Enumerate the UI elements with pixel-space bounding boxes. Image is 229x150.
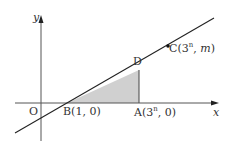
point-a-name: A bbox=[134, 106, 142, 119]
origin-label: O bbox=[29, 106, 38, 117]
line-bc bbox=[15, 18, 214, 133]
point-c-coords-suffix: ) bbox=[211, 42, 215, 55]
point-c-coords-prefix: (3 bbox=[177, 42, 188, 55]
x-axis-arrow-icon bbox=[211, 101, 219, 106]
y-axis-label: y bbox=[33, 12, 39, 23]
point-c-var: m bbox=[200, 42, 210, 55]
point-a-label: A(3n, 0) bbox=[134, 106, 176, 118]
shaded-triangle-bad bbox=[67, 70, 139, 103]
point-b-label: B(1, 0) bbox=[63, 106, 101, 117]
x-axis-label: x bbox=[213, 107, 219, 118]
point-d-label: D bbox=[133, 56, 142, 67]
point-b-coords: (1, 0) bbox=[71, 105, 101, 118]
point-a-coords-suffix: , 0) bbox=[158, 106, 176, 119]
point-a-coords-prefix: (3 bbox=[142, 106, 153, 119]
point-c-label: C(3n, m) bbox=[169, 42, 215, 54]
y-axis-arrow-icon bbox=[39, 15, 44, 23]
point-b-name: B bbox=[63, 105, 71, 118]
